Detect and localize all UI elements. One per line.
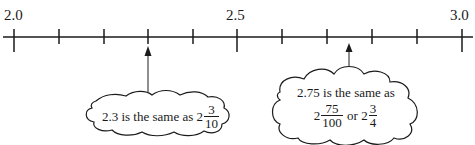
fraction-3-10: 310	[204, 103, 219, 130]
or-connector: or	[347, 108, 358, 123]
callout-statement: 2.3 is the same as	[102, 109, 193, 124]
mixed-whole-1: 2	[314, 108, 321, 123]
fraction-3-4: 34	[369, 102, 378, 129]
callout-text-2-3: 2.3 is the same as 2310	[98, 103, 224, 130]
label-3-0: 3.0	[450, 8, 469, 23]
mixed-whole-2: 2	[361, 108, 368, 123]
callout-statement: 2.75 is the same as	[286, 86, 406, 100]
label-2-0: 2.0	[4, 8, 23, 23]
label-2-5: 2.5	[226, 8, 245, 23]
callout-text-2-75: 2.75 is the same as 275100 or 234	[286, 86, 406, 129]
mixed-whole: 2	[197, 109, 204, 124]
tick-marks	[14, 29, 462, 52]
fraction-75-100: 75100	[321, 102, 343, 129]
arrow-2-3	[145, 46, 152, 92]
